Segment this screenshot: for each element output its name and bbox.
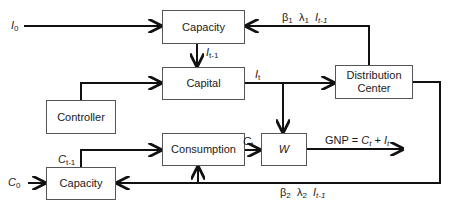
w-box: W <box>261 133 307 166</box>
capacity-box-top: Capacity <box>162 10 245 44</box>
label-feedback-top: β1 λ1 It-1 <box>282 11 327 25</box>
capacity-top-label: Capacity <box>182 21 225 34</box>
controller-label: Controller <box>57 111 105 124</box>
label-i-t-minus-1: It-1 <box>206 46 218 60</box>
capacity-box-bottom: Capacity <box>46 167 116 200</box>
distribution-label: Distribution <box>346 69 401 82</box>
label-i-t: It <box>255 68 260 82</box>
label-feedback-bottom: β2 λ2 It-1 <box>280 186 325 200</box>
controller-box: Controller <box>46 100 116 134</box>
consumption-box: Consumption <box>162 133 245 166</box>
center-label: Center <box>357 82 390 95</box>
distribution-center-box: Distribution Center <box>335 65 413 99</box>
label-gnp: GNP = Ct + It <box>325 134 389 148</box>
capital-box: Capital <box>162 67 245 100</box>
w-label: W <box>279 143 289 156</box>
label-i0: I0 <box>11 19 19 33</box>
capacity-bottom-label: Capacity <box>60 177 103 190</box>
consumption-label: Consumption <box>171 143 236 156</box>
label-c-t: Ct <box>243 135 253 149</box>
capital-label: Capital <box>186 77 220 90</box>
label-c0: C0 <box>8 176 20 190</box>
label-c-t-minus-1: Ct-1 <box>58 153 75 167</box>
